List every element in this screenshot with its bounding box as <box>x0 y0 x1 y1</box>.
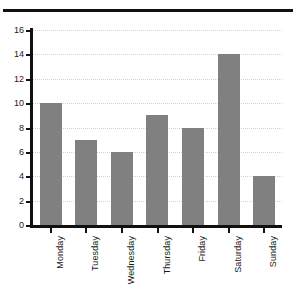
y-axis-tick-labels: 0246810121416 <box>0 0 24 289</box>
y-axis-tick-label: 2 <box>2 196 24 206</box>
y-axis-tick-mark <box>26 79 30 81</box>
x-axis-tick-mark <box>121 228 123 233</box>
y-axis-tick-label: 16 <box>2 25 24 35</box>
x-axis-tick-mark <box>50 228 52 233</box>
y-axis-tick-mark <box>26 225 30 227</box>
y-axis-tick-mark <box>26 176 30 178</box>
title-divider-rule <box>3 9 293 12</box>
bar-column <box>69 30 105 225</box>
y-axis-tick-label: 12 <box>2 74 24 84</box>
bar-column <box>33 30 69 225</box>
x-axis-tick-mark <box>263 228 265 233</box>
bar-column <box>246 30 282 225</box>
bar[interactable] <box>75 140 97 225</box>
bar[interactable] <box>218 54 240 225</box>
bar-column <box>104 30 140 225</box>
x-axis-tick-label: Wednesday <box>126 236 136 284</box>
x-axis-tick-label: Saturday <box>233 236 243 273</box>
bar-column <box>175 30 211 225</box>
bar-column <box>211 30 247 225</box>
y-axis-tick-label: 4 <box>2 171 24 181</box>
y-axis-tick-label: 10 <box>2 98 24 108</box>
bar[interactable] <box>111 152 133 225</box>
x-axis-tick-label: Thursday <box>162 236 172 274</box>
y-axis-tick-mark <box>26 103 30 105</box>
bar-column <box>140 30 176 225</box>
x-axis-tick-label: Friday <box>197 236 207 262</box>
y-axis-tick-label: 14 <box>2 49 24 59</box>
y-axis-tick-mark <box>26 30 30 32</box>
plot-area <box>33 30 282 225</box>
chart-title <box>4 0 292 7</box>
y-axis-tick-mark <box>26 128 30 130</box>
y-axis-tick-label: 8 <box>2 123 24 133</box>
x-axis-tick-label: Monday <box>55 236 65 269</box>
x-axis-tick-mark <box>192 228 194 233</box>
bar[interactable] <box>40 103 62 225</box>
bar[interactable] <box>182 128 204 226</box>
bar-chart-figure: 0246810121416 MondayTuesdayWednesdayThur… <box>0 0 296 289</box>
y-axis-tick-mark <box>26 54 30 56</box>
x-axis-tick-mark <box>228 228 230 233</box>
y-axis-tick-mark <box>26 152 30 154</box>
x-axis-tick-label: Tuesday <box>90 236 100 271</box>
bar[interactable] <box>253 176 275 225</box>
x-axis-tick-mark <box>157 228 159 233</box>
y-axis-tick-mark <box>26 201 30 203</box>
bar[interactable] <box>146 115 168 225</box>
y-axis-tick-label: 6 <box>2 147 24 157</box>
x-axis-tick-label: Sunday <box>268 236 278 267</box>
y-axis-tick-label: 0 <box>2 220 24 230</box>
x-axis-tick-mark <box>85 228 87 233</box>
